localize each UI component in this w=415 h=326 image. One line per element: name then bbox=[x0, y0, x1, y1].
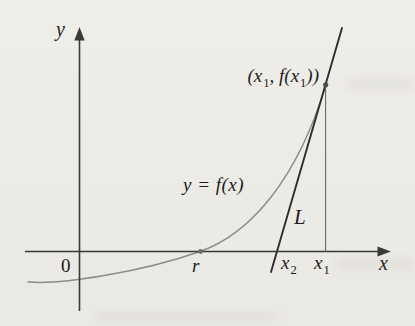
point-label-close: )) bbox=[306, 65, 319, 86]
x2-subscript: 2 bbox=[290, 263, 296, 277]
origin-label: 0 bbox=[61, 256, 71, 275]
x1-tick-label: x1 bbox=[314, 253, 330, 272]
point-label-sub2: 1 bbox=[300, 76, 306, 90]
x2-base: x bbox=[281, 252, 289, 273]
x1-subscript: 1 bbox=[323, 263, 329, 277]
tangent-line-label: L bbox=[294, 207, 306, 228]
point-label-mid: , f(x bbox=[270, 65, 300, 86]
y-axis-label: y bbox=[56, 19, 65, 39]
x1-base: x bbox=[314, 252, 322, 273]
textbook-figure-newtons-method: y x 0 r y = f(x) L x2 x1 (x1, f(x1)) bbox=[0, 0, 415, 326]
y-axis-arrowhead bbox=[74, 27, 84, 41]
x2-tick-label: x2 bbox=[281, 253, 297, 272]
figure-canvas bbox=[0, 0, 415, 326]
point-label-sub1: 1 bbox=[263, 76, 269, 90]
root-point-dot bbox=[198, 249, 203, 254]
point-label-open: (x bbox=[248, 65, 263, 86]
root-r-label: r bbox=[192, 256, 199, 275]
tangent-point-label: (x1, f(x1)) bbox=[248, 66, 319, 85]
curve-equation-label: y = f(x) bbox=[183, 175, 244, 194]
x-axis-label: x bbox=[379, 253, 388, 273]
tangent-point-dot bbox=[323, 82, 328, 87]
